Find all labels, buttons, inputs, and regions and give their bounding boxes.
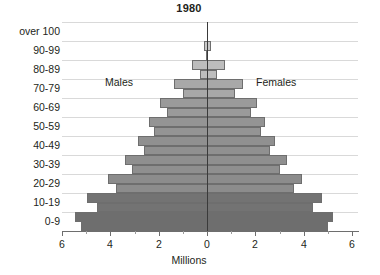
y-axis-label: 10-19 xyxy=(33,197,60,208)
bar-female xyxy=(207,117,265,127)
bar-female xyxy=(207,222,328,232)
bar-male xyxy=(192,60,207,70)
x-axis-minor-tick xyxy=(328,231,329,234)
y-axis-label: 20-29 xyxy=(33,178,60,189)
y-axis-label: 40-49 xyxy=(33,140,60,151)
x-axis-minor-tick xyxy=(231,231,232,234)
bar-male xyxy=(125,155,207,165)
population-pyramid-chart: 1980 0-910-1920-2930-3940-4950-5960-6970… xyxy=(0,0,380,275)
bar-female xyxy=(207,60,225,70)
x-axis-tick xyxy=(207,231,208,236)
bar-female xyxy=(207,108,251,118)
bar-female xyxy=(207,212,333,222)
pyramid-band xyxy=(62,136,358,155)
center-axis-line xyxy=(207,22,208,231)
x-axis-tick xyxy=(255,231,256,236)
bar-female xyxy=(207,98,257,108)
y-axis-label: 0-9 xyxy=(45,216,60,227)
y-axis-label: 70-79 xyxy=(33,83,60,94)
bar-female xyxy=(207,127,261,137)
x-axis-tick-label: 4 xyxy=(107,238,113,250)
bar-female xyxy=(207,89,235,99)
bar-male xyxy=(81,222,207,232)
pyramid-band xyxy=(62,212,358,231)
bar-male xyxy=(154,127,207,137)
pyramid-band xyxy=(62,22,358,41)
pyramid-band xyxy=(62,174,358,193)
x-axis-tick-label: 6 xyxy=(349,238,355,250)
pyramid-band xyxy=(62,98,358,117)
y-axis-label: 80-89 xyxy=(33,64,60,75)
bar-female xyxy=(207,136,275,146)
x-axis-tick xyxy=(110,231,111,236)
x-axis-title: Millions xyxy=(0,254,380,266)
y-axis-label: 30-39 xyxy=(33,159,60,170)
y-axis-age-labels: 0-910-1920-2930-3940-4950-5960-6970-7980… xyxy=(0,22,60,231)
bar-female xyxy=(207,70,217,80)
x-axis-title-text: Millions xyxy=(171,254,206,266)
chart-title-text: 1980 xyxy=(176,2,201,14)
y-axis-label: 50-59 xyxy=(33,121,60,132)
bar-female xyxy=(207,203,313,213)
x-axis-tick-label: 0 xyxy=(204,238,210,250)
x-axis-minor-tick xyxy=(135,231,136,234)
bar-female xyxy=(207,184,294,194)
x-axis-tick xyxy=(62,231,63,236)
chart-title: 1980 xyxy=(0,2,380,14)
x-axis-tick-label: 2 xyxy=(252,238,258,250)
plot-area xyxy=(62,22,358,231)
males-label: Males xyxy=(105,76,133,88)
y-axis-label: 90-99 xyxy=(33,45,60,56)
pyramid-band xyxy=(62,41,358,60)
x-axis-minor-tick xyxy=(280,231,281,234)
x-axis-tick xyxy=(304,231,305,236)
x-axis-line xyxy=(62,231,359,232)
x-axis-minor-tick xyxy=(183,231,184,234)
x-axis-tick xyxy=(352,231,353,236)
bar-male xyxy=(132,165,207,175)
bar-male xyxy=(97,203,207,213)
pyramid-band xyxy=(62,155,358,174)
bar-male xyxy=(87,193,207,203)
bar-male xyxy=(108,174,207,184)
y-axis-label: 60-69 xyxy=(33,102,60,113)
x-axis-tick-label: 4 xyxy=(301,238,307,250)
bar-female xyxy=(207,165,280,175)
bar-male xyxy=(200,70,207,80)
x-axis-tick xyxy=(159,231,160,236)
bar-male xyxy=(174,79,207,89)
bar-female xyxy=(207,79,243,89)
bar-male xyxy=(75,212,207,222)
y-axis-label: over 100 xyxy=(19,26,60,37)
bar-male xyxy=(149,117,207,127)
pyramid-band xyxy=(62,193,358,212)
bar-male xyxy=(167,108,207,118)
females-label: Females xyxy=(256,76,296,88)
bar-male xyxy=(138,136,207,146)
bar-male xyxy=(160,98,207,108)
x-axis-minor-tick xyxy=(86,231,87,234)
bar-female xyxy=(207,193,322,203)
bar-male xyxy=(144,146,207,156)
pyramid-band xyxy=(62,117,358,136)
bar-male xyxy=(183,89,207,99)
bar-female xyxy=(207,155,287,165)
bar-female xyxy=(207,146,270,156)
bar-male xyxy=(116,184,207,194)
x-axis-tick-label: 6 xyxy=(59,238,65,250)
x-axis-tick-label: 2 xyxy=(156,238,162,250)
bar-female xyxy=(207,174,302,184)
